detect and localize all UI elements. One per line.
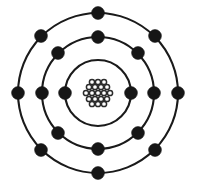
electron-shell2-7 xyxy=(92,143,105,156)
nucleon-circle xyxy=(86,84,91,89)
nucleon-circle xyxy=(92,84,97,89)
nucleon-circle xyxy=(101,90,106,95)
electron-shell3-4 xyxy=(149,30,162,43)
electron-shell2-4 xyxy=(132,47,145,60)
nucleon-circle xyxy=(107,90,112,95)
nucleon-circle xyxy=(95,90,100,95)
nucleon-circle xyxy=(89,101,94,106)
electron-shell3-8 xyxy=(35,144,48,157)
electron-shell2-2 xyxy=(52,47,65,60)
nucleon-circle xyxy=(83,90,88,95)
nucleon-circle xyxy=(101,79,106,84)
nucleon-circle xyxy=(89,79,94,84)
bohr-atom-diagram xyxy=(0,0,197,185)
electron-shell1-1 xyxy=(59,87,72,100)
electron-shell3-7 xyxy=(92,167,105,180)
electron-shell3-6 xyxy=(149,144,162,157)
electron-shell3-2 xyxy=(35,30,48,43)
nucleon-circle xyxy=(98,84,103,89)
electron-shell3-5 xyxy=(172,87,185,100)
nucleon-circle xyxy=(86,96,91,101)
nucleon-circle xyxy=(101,101,106,106)
electron-shell3-3 xyxy=(92,7,105,20)
electron-shell2-3 xyxy=(92,31,105,44)
nucleon-circle xyxy=(92,96,97,101)
nucleon-circle xyxy=(104,84,109,89)
atom-svg-canvas xyxy=(0,0,197,185)
electron-shell2-8 xyxy=(52,127,65,140)
nucleon-circle xyxy=(95,79,100,84)
nucleon-circle xyxy=(95,101,100,106)
electron-shell2-1 xyxy=(36,87,49,100)
electron-shell2-5 xyxy=(148,87,161,100)
nucleon-circle xyxy=(89,90,94,95)
nucleon-circle xyxy=(104,96,109,101)
electron-shell3-1 xyxy=(12,87,25,100)
electron-shell2-6 xyxy=(132,127,145,140)
electron-shell1-2 xyxy=(125,87,138,100)
nucleon-circle xyxy=(98,96,103,101)
